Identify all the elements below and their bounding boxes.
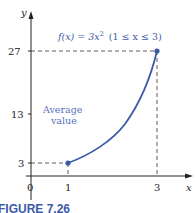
tick-label-x1: 1 <box>65 182 71 193</box>
chart-canvas: y x 27 13 3 0 1 3 f(x) = 3x2(1 ≤ x ≤ 3) … <box>0 0 195 213</box>
function-expression: f(x) = 3x <box>57 31 100 42</box>
figure-caption: FIGURE 7.26 <box>0 202 70 213</box>
y-axis-arrow-icon <box>29 11 34 19</box>
y-axis-label: y <box>20 7 27 18</box>
tick-label-3: 3 <box>18 158 24 169</box>
function-label: f(x) = 3x2(1 ≤ x ≤ 3) <box>57 30 162 42</box>
x-axis-label: x <box>186 182 192 193</box>
tick-label-27: 27 <box>8 46 21 57</box>
function-domain: (1 ≤ x ≤ 3) <box>109 31 162 42</box>
tick-label-x3: 3 <box>154 182 160 193</box>
tick-label-13: 13 <box>11 109 24 120</box>
endpoint-end <box>154 48 159 53</box>
x-axis-arrow-icon <box>185 174 193 179</box>
tick-label-x0: 0 <box>27 182 33 193</box>
average-label-line2: value <box>50 115 77 126</box>
endpoint-start <box>65 160 70 165</box>
average-label-line1: Average <box>42 104 83 115</box>
function-exponent: 2 <box>100 30 104 38</box>
